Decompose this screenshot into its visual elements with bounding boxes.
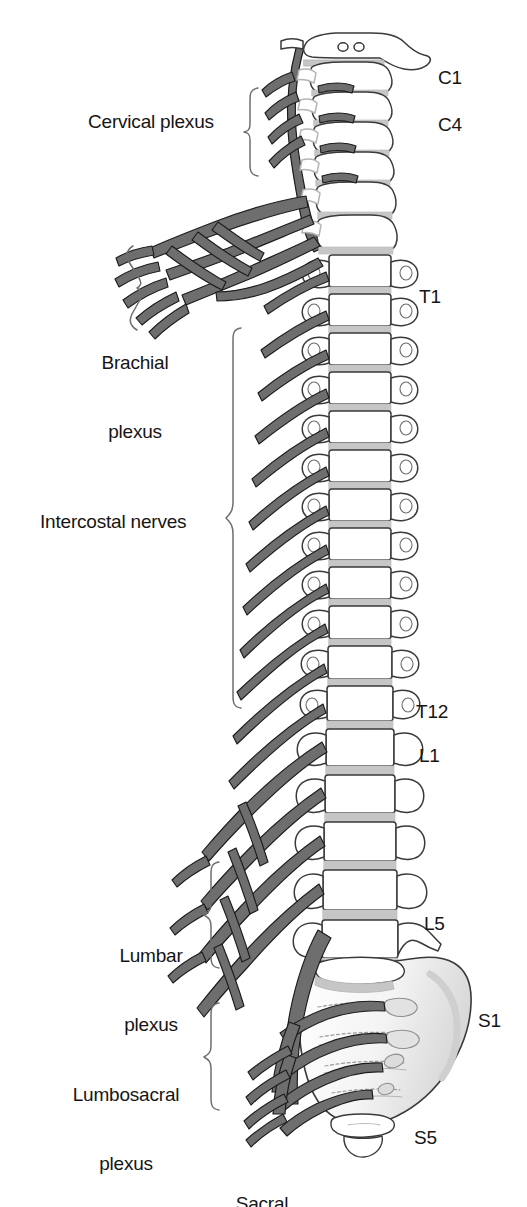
c1-foramen-right (354, 43, 364, 51)
label-vertebra-c1: C1 (438, 66, 462, 89)
label-cervical-plexus: Cervical plexus (88, 110, 214, 133)
label-vertebra-t1: T1 (419, 285, 441, 308)
label-vertebra-c4: C4 (438, 113, 462, 136)
label-brachial-plexus: Brachial plexus (82, 305, 188, 489)
label-lumbosacral-plexus-line2: plexus (55, 1152, 197, 1175)
label-lumbar-plexus-line1: Lumbar (105, 944, 197, 967)
label-sacral-plexus: Sacral plexus (218, 1146, 306, 1207)
label-brachial-plexus-line1: Brachial (82, 351, 188, 374)
label-lumbar-plexus-line2: plexus (105, 1013, 197, 1036)
label-sacral-plexus-line1: Sacral (218, 1192, 306, 1207)
sacral-foramen-2 (387, 1030, 420, 1048)
sacral-foramen-1 (385, 998, 418, 1016)
label-vertebra-s5: S5 (414, 1126, 437, 1149)
label-intercostal-nerves: Intercostal nerves (40, 510, 186, 533)
spinal-column-illustration (0, 0, 527, 1207)
disc-c7-t1 (319, 247, 393, 254)
c1-transverse-left (281, 39, 303, 49)
label-vertebra-l5: L5 (424, 912, 445, 935)
coccyx-segment-1 (331, 1114, 395, 1137)
vertebra-c7 (317, 215, 397, 252)
label-vertebra-l1: L1 (419, 744, 440, 767)
c1-foramen-left (338, 43, 348, 51)
label-vertebra-t12: T12 (416, 700, 448, 723)
label-brachial-plexus-line2: plexus (82, 420, 188, 443)
label-lumbosacral-plexus-line1: Lumbosacral (55, 1083, 197, 1106)
label-vertebra-s1: S1 (478, 1009, 501, 1032)
label-lumbosacral-plexus: Lumbosacral plexus (55, 1037, 197, 1207)
spinal-plexus-figure: Cervical plexus Brachial plexus Intercos… (0, 0, 527, 1207)
